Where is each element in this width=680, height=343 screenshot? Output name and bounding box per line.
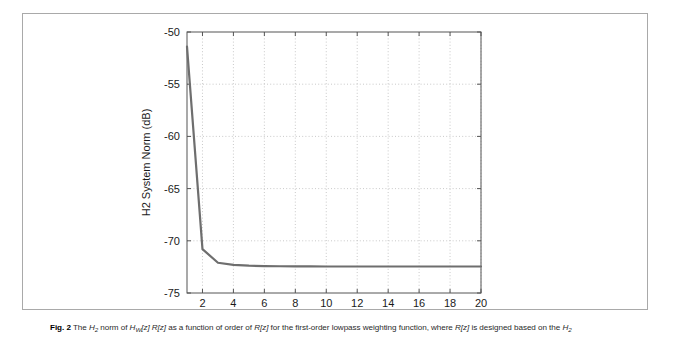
y-tick-label: -55 [164,78,180,90]
y-tick-label: -75 [164,287,180,299]
caption-fragment: [z] [461,323,472,332]
chart-y-tick-labels: -75-70-65-60-55-50 [164,26,180,299]
chart-data-line [187,47,481,267]
series-line [187,47,481,267]
x-tick-label: 20 [475,297,487,309]
x-tick-label: 2 [199,297,205,309]
chart-x-tick-labels: 2468101214161820 [199,297,487,309]
caption-fragment: [z] [158,323,169,332]
y-tick-label: -70 [164,235,180,247]
x-tick-label: 12 [351,297,363,309]
x-tick-label: 8 [292,297,298,309]
caption-fragment: [z] [260,323,271,332]
chart-svg: 2468101214161820 -75-70-65-60-55-50 FIR … [23,14,649,311]
chart-tick-marks [187,32,481,293]
x-tick-label: 16 [413,297,425,309]
caption-fragment: for the first-order lowpass weighting fu… [271,323,455,332]
chart-plot-area: 2468101214161820 -75-70-65-60-55-50 FIR … [23,14,649,311]
y-tick-label: -60 [164,130,180,142]
x-tick-label: 10 [320,297,332,309]
figure-caption: Fig. 2 The H2 norm of HW[z] R[z] as a fu… [50,322,650,333]
caption-fragment: [z] [141,323,152,332]
caption-fragment: 2 [568,326,571,333]
x-tick-label: 6 [261,297,267,309]
caption-fragment: as a function of order of [168,323,254,332]
figure-caption-body: The H2 norm of HW[z] R[z] as a function … [71,323,572,332]
x-tick-label: 18 [444,297,456,309]
caption-fragment: 2 [95,326,98,333]
figure-frame: 2468101214161820 -75-70-65-60-55-50 FIR … [22,13,648,310]
caption-fragment: W [135,326,141,333]
y-tick-label: -50 [164,26,180,38]
caption-fragment: The [73,323,89,332]
y-tick-label: -65 [164,183,180,195]
figure-caption-label: Fig. 2 [50,323,71,332]
y-axis-title: H2 System Norm (dB) [140,109,152,217]
chart-gridlines [187,32,481,293]
figure-root: 2468101214161820 -75-70-65-60-55-50 FIR … [0,0,680,343]
x-tick-label: 14 [382,297,394,309]
x-tick-label: 4 [230,297,236,309]
caption-fragment: norm of [98,323,130,332]
plot-border [187,32,481,293]
chart-axes [187,32,481,293]
caption-fragment: is designed based on the [471,323,562,332]
